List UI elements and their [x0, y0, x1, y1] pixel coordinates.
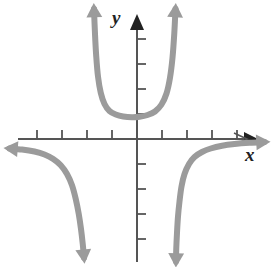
y-axis-label: y: [112, 8, 120, 27]
axes-group: [18, 14, 258, 262]
y-axis-arrowhead: [130, 14, 144, 30]
graph-canvas: [0, 0, 272, 267]
curve-arrow-end-left-lower-branch: [75, 249, 91, 264]
graph-figure: y x: [0, 0, 272, 267]
x-axis-label: x: [245, 145, 255, 164]
curve-arrow-end-right-lower-branch: [168, 253, 184, 267]
curve-arrow-start-upper-u-branch: [86, 3, 102, 18]
curve-left-lower-branch: [10, 149, 85, 258]
curve-arrow-end-upper-u-branch: [167, 3, 183, 18]
curve-arrow-start-right-lower-branch: [256, 135, 271, 151]
curve-arrow-start-left-lower-branch: [3, 141, 18, 157]
